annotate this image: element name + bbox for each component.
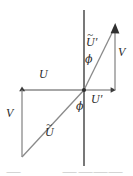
caption-fragment: ⸺⸺⸺ bbox=[78, 168, 123, 176]
prime-mark-icon: ′ bbox=[95, 35, 98, 49]
origin-point bbox=[82, 88, 86, 92]
label-v-right: V bbox=[118, 46, 125, 58]
tilde-accent-icon: ~ bbox=[87, 29, 93, 40]
label-v-left: V bbox=[6, 107, 13, 119]
vector-diagram-canvas bbox=[0, 0, 133, 176]
label-phi-upper: ϕ bbox=[85, 54, 93, 65]
clipped-caption-strip: ⸺⸺⸺⸺⸺ bbox=[0, 166, 133, 176]
label-u-prime: U′ bbox=[91, 93, 102, 105]
vector-diagram-figure: U V ~ U ϕ U′ ϕ ~ U ′ V ⸺⸺⸺⸺⸺ bbox=[0, 0, 133, 176]
label-u-tilde: ~ U bbox=[45, 126, 54, 138]
caption-fragment: ⸺ bbox=[62, 168, 77, 176]
vector-u-tilde-line bbox=[22, 90, 84, 157]
tilde-accent-icon: ~ bbox=[46, 119, 52, 130]
label-phi-lower: ϕ bbox=[76, 101, 84, 112]
label-u: U bbox=[39, 68, 48, 80]
label-u-prime-letter: U bbox=[91, 92, 100, 106]
label-u-tilde-prime-letter-wrap: ~ U bbox=[86, 36, 95, 48]
caption-fragment: ⸺ bbox=[6, 168, 21, 176]
label-u-tilde-letter-wrap: ~ U bbox=[45, 126, 54, 138]
resultant-arrowhead bbox=[111, 23, 120, 34]
label-u-tilde-prime: ~ U ′ bbox=[86, 36, 97, 48]
prime-mark-icon: ′ bbox=[100, 92, 103, 106]
